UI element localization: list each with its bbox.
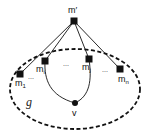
node-m1 [17, 71, 24, 78]
label-m1: m1 [15, 78, 27, 89]
graph-diagram: m′ m1 mi mj mn ... ... ... v g [0, 0, 153, 140]
ellipsis-2: ... [63, 60, 69, 67]
label-region-g: g [26, 95, 32, 109]
label-m-prime: m′ [68, 5, 77, 15]
ellipsis-1: ... [28, 73, 34, 80]
ellipsis-3: ... [102, 66, 108, 73]
label-v: v [72, 108, 77, 118]
node-mn [117, 66, 124, 73]
edges [20, 21, 120, 103]
label-mn: mn [118, 74, 129, 85]
node-m-prime [71, 18, 78, 25]
node-v [72, 100, 78, 106]
label-mi: mi [36, 64, 45, 75]
